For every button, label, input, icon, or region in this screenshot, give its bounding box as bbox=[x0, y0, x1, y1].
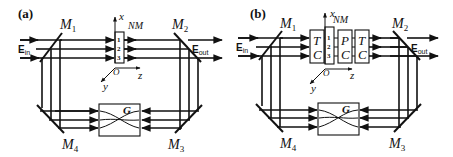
z-axis-label: z bbox=[349, 69, 355, 81]
m1-label: M1 bbox=[59, 17, 76, 34]
tc-block-1: T C bbox=[310, 30, 324, 63]
g-element bbox=[318, 103, 359, 135]
panel-b-label: (b) bbox=[250, 6, 266, 21]
m2-label: M2 bbox=[171, 17, 188, 34]
nm-element: 1 2 3 bbox=[325, 27, 334, 64]
y-axis-label: y bbox=[310, 82, 316, 94]
m3-label: M3 bbox=[388, 136, 406, 153]
m4-label: M4 bbox=[61, 137, 79, 154]
channel-2: 2 bbox=[117, 45, 121, 53]
g-label: G bbox=[342, 103, 350, 115]
nm-label: NM bbox=[127, 20, 144, 31]
channel-2: 2 bbox=[327, 43, 331, 51]
g-element bbox=[99, 104, 140, 136]
channel-3: 3 bbox=[117, 54, 121, 62]
m3-label: M3 bbox=[167, 137, 185, 154]
e-in-label: Ein bbox=[18, 44, 30, 56]
y-axis-label: y bbox=[102, 80, 108, 92]
svg-text:C: C bbox=[313, 47, 322, 62]
tc-block-2: T C bbox=[355, 30, 369, 63]
svg-text:T: T bbox=[358, 33, 366, 48]
panel-b: (b) Ein M1 T C 1 2 bbox=[236, 6, 438, 153]
panel-a: (a) Ein M1 1 2 3 NM bbox=[18, 6, 222, 154]
origin-label: O bbox=[323, 68, 330, 78]
svg-text:C: C bbox=[341, 47, 350, 62]
g-label: G bbox=[123, 104, 131, 116]
svg-text:T: T bbox=[313, 33, 321, 48]
m4-label: M4 bbox=[279, 136, 297, 153]
x-axis-label: x bbox=[329, 7, 335, 19]
m1-label: M1 bbox=[279, 16, 296, 33]
pc-block: P C bbox=[338, 30, 352, 63]
channel-3: 3 bbox=[327, 52, 331, 60]
e-in-label: Ein bbox=[236, 42, 248, 54]
channel-1: 1 bbox=[327, 34, 331, 42]
x-axis-label: x bbox=[118, 10, 124, 22]
m2-label: M2 bbox=[391, 16, 408, 33]
svg-text:P: P bbox=[340, 33, 349, 48]
z-axis-label: z bbox=[137, 69, 143, 81]
origin-label: O bbox=[113, 67, 120, 77]
optical-setup-diagram: (a) Ein M1 1 2 3 NM bbox=[0, 0, 453, 157]
channel-1: 1 bbox=[117, 36, 121, 44]
svg-text:C: C bbox=[358, 47, 367, 62]
panel-a-label: (a) bbox=[18, 6, 33, 21]
